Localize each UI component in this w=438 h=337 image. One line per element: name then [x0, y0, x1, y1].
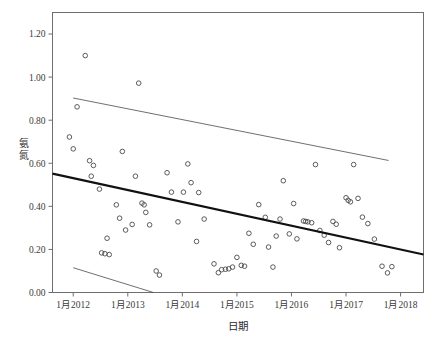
y-tick-label: 0.00: [29, 288, 46, 298]
chart-background: [0, 0, 438, 337]
y-tick-label: 0.80: [29, 116, 46, 126]
x-tick-label: 1月2017: [329, 300, 363, 310]
x-tick-label: 1月2014: [165, 300, 199, 310]
chart-container: 0.000.200.400.600.801.001.20 1月20121月201…: [0, 0, 438, 337]
x-tick-label: 1月2013: [111, 300, 145, 310]
x-tick-label: 1月2015: [220, 300, 254, 310]
x-axis-title: 日期: [228, 320, 248, 332]
y-axis-title-char: 氨: [19, 137, 29, 149]
y-tick-label: 0.60: [29, 159, 46, 169]
y-tick-label: 0.20: [29, 245, 46, 255]
x-tick-label: 1月2018: [384, 300, 418, 310]
x-tick-label: 1月2012: [56, 300, 90, 310]
y-tick-label: 1.00: [29, 73, 46, 83]
scatter-plot-svg: 0.000.200.400.600.801.001.20 1月20121月201…: [0, 0, 438, 337]
y-tick-label: 0.40: [29, 202, 46, 212]
x-tick-label: 1月2016: [275, 300, 309, 310]
y-axis-title-char: 氮: [19, 149, 29, 161]
y-tick-label: 1.20: [29, 29, 46, 39]
